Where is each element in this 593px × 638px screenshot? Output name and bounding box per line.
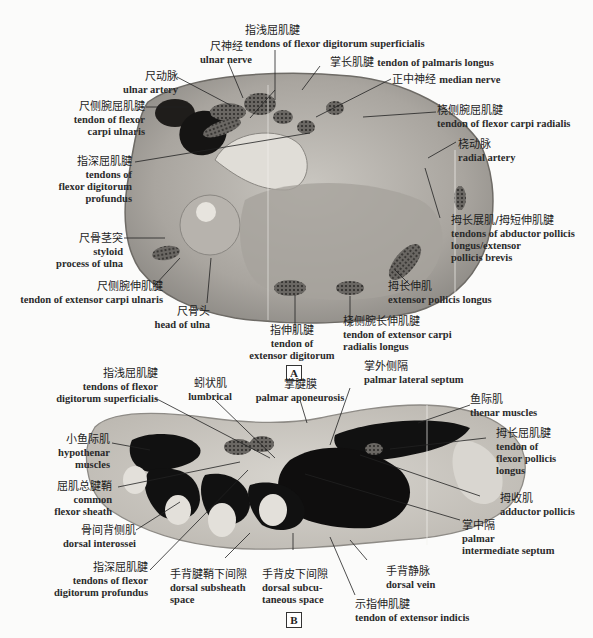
label-median-nerve: 正中神经 median nerve — [392, 73, 500, 87]
label-apl-epb-tendons: 拇长展肌/拇短伸肌腱 tendons of abductor pollicis … — [451, 214, 575, 264]
metacarpal-2 — [259, 494, 287, 526]
label-styloid-process: 尺骨茎突 styloid process of ulna — [50, 232, 123, 270]
fcr-tendon — [326, 101, 344, 115]
metacarpal-5 — [123, 466, 147, 494]
label-dorsal-subcutaneous-space: 手背皮下间隙 dorsal subcu- taneous space — [262, 568, 328, 606]
label-dorsal-vein: 手背静脉 dorsal vein — [386, 565, 435, 591]
label-lumbrical: 蚓状肌 lumbrical — [180, 377, 240, 403]
label-radial-artery: 桡动脉 radial artery — [458, 138, 515, 164]
panel-tag-b: B — [286, 612, 302, 628]
label-b-fdp-tendons: 指深屈肌腱 tendons of flexor digitorum profun… — [40, 561, 148, 599]
apl-epb-tendon — [454, 186, 466, 210]
label-b-fds-tendons: 指浅屈肌腱 tendons of flexor digitorum superf… — [40, 367, 158, 405]
label-thenar-muscles: 鱼际肌 thenar muscles — [470, 393, 537, 419]
label-epl: 拇长伸肌 extensor pollicis longus — [388, 280, 492, 306]
metacarpal-4 — [165, 495, 191, 525]
label-fcr-tendon: 桡侧腕屈肌腱 tendon of flexor carpi radialis — [437, 104, 570, 130]
label-fpl-tendon: 拇长屈肌腱 tendon of flexor pollicis longus — [496, 427, 556, 477]
fds-tendon-group — [210, 103, 246, 121]
label-fdp-tendons: 指深屈肌腱 tendons of flexor digitorum profun… — [50, 155, 132, 205]
label-dorsal-interossei: 骨间背侧肌 dorsal interossei — [50, 524, 136, 550]
fpl-tendon — [365, 443, 383, 455]
label-head-of-ulna: 尺骨头 head of ulna — [150, 305, 210, 331]
label-common-flexor-sheath: 屈肌总腱鞘 common flexor sheath — [40, 480, 112, 518]
median-nerve-mark — [297, 120, 315, 134]
label-ecu-tendon: 尺侧腕伸肌腱 tendon of extensor carpi ulnaris — [15, 280, 163, 306]
label-palmaris-longus: 掌长肌腱 tendon of palmaris longus — [330, 56, 494, 70]
label-dorsal-subsheath-space: 手背腱鞘下间隙 dorsal subsheath space — [170, 568, 247, 606]
label-extensor-indicis: 示指伸肌腱 tendon of extensor indicis — [355, 598, 469, 624]
label-adductor-pollicis: 拇收肌 adductor pollicis — [500, 492, 575, 518]
label-ed-tendon: 指伸肌腱 tendon of extensor digitorum — [240, 324, 344, 362]
metacarpal-3 — [208, 503, 236, 537]
fds-tendon-group-2 — [244, 93, 276, 115]
label-hypothenar-muscles: 小鱼际肌 hypothenar muscles — [45, 433, 110, 471]
ed-tendon-group — [274, 280, 306, 296]
label-ulnar-artery: 尺动脉 ulnar artery — [120, 70, 178, 96]
fds-tendon-group-3 — [273, 110, 293, 124]
hand-cross-section — [87, 405, 526, 549]
ecrl-tendon — [336, 281, 364, 295]
label-fds-tendons: 指浅屈肌腱 tendons of flexor digitorum superf… — [245, 24, 424, 50]
label-palmar-lateral-septum: 掌外侧隔 palmar lateral septum — [364, 360, 464, 386]
label-fcu-tendon: 尺侧腕屈肌腱 tendon of flexor carpi ulnaris — [70, 100, 145, 138]
label-ecrl-tendon: 桡侧腕长伸肌腱 tendon of extensor carpi radiali… — [343, 315, 452, 353]
label-palmar-intermediate-septum: 掌中隔 palmar intermediate septum — [462, 519, 554, 557]
ulna-head-inner — [196, 202, 216, 222]
label-palmar-aponeurosis: 掌腱膜 palmar aponeurosis — [250, 378, 350, 404]
